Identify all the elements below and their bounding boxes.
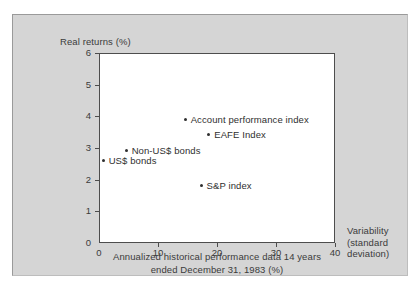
x-axis-variability-label-line: Variability	[347, 225, 413, 237]
y-axis-title: Real returns (%)	[60, 36, 131, 47]
y-tick-mark	[95, 211, 99, 212]
x-axis-variability-label-line: deviation)	[347, 248, 413, 260]
x-tick-mark	[335, 243, 336, 247]
y-tick-mark	[95, 116, 99, 117]
y-tick-label: 4	[75, 110, 91, 121]
data-point-label: EAFE Index	[214, 129, 266, 140]
x-axis-variability-label-line: (standard	[347, 237, 413, 249]
chart-panel: Real returns (%) 0123456 010203040 Accou…	[12, 14, 408, 276]
data-point-marker-icon	[125, 149, 128, 152]
x-tick-mark	[158, 243, 159, 247]
y-tick-label: 6	[75, 47, 91, 58]
y-tick-label: 3	[75, 142, 91, 153]
x-axis-caption: Annualized historical performance data 1…	[99, 251, 335, 276]
data-point-label: S&P index	[207, 180, 252, 191]
data-point: EAFE Index	[207, 129, 266, 140]
y-tick-mark	[95, 180, 99, 181]
x-axis-variability-label: Variability(standarddeviation)	[347, 225, 413, 260]
data-point: US$ bonds	[102, 155, 157, 166]
y-tick-mark	[95, 85, 99, 86]
data-point: Account performance index	[184, 114, 309, 125]
x-tick-mark	[217, 243, 218, 247]
y-tick-mark	[95, 53, 99, 54]
data-point-marker-icon	[184, 118, 187, 121]
data-point: S&P index	[200, 180, 252, 191]
data-point-label: Account performance index	[191, 114, 309, 125]
data-point-marker-icon	[207, 133, 210, 136]
chart-figure: Real returns (%) 0123456 010203040 Accou…	[0, 0, 420, 294]
y-tick-label: 2	[75, 174, 91, 185]
data-point-marker-icon	[200, 184, 203, 187]
data-point-marker-icon	[102, 159, 105, 162]
y-tick-label: 1	[75, 205, 91, 216]
y-tick-label: 5	[75, 79, 91, 90]
y-tick-mark	[95, 148, 99, 149]
x-tick-mark	[276, 243, 277, 247]
data-point-label: US$ bonds	[109, 155, 157, 166]
